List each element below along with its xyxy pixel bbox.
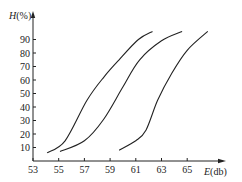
y-tick-label: 50 [20,88,30,99]
y-axis-label: H(%) [8,10,31,22]
y-tick-label: 30 [20,115,30,126]
y-tick-label: 40 [20,102,30,113]
y-tick-label: 60 [20,75,30,86]
x-tick-label: 53 [28,164,38,175]
curve-2 [60,31,182,151]
y-tick-label: 70 [20,61,30,72]
y-tick-label: 20 [20,129,30,140]
x-tick-label: 55 [54,164,64,175]
x-tick-label: 59 [105,164,115,175]
x-tick-label: 61 [131,164,141,175]
curve-1 [47,31,152,152]
y-axis-label-unit: (%) [16,10,31,22]
y-ticks: 102030405060708090 [20,34,36,153]
x-axis-label: E(db) [203,166,227,178]
x-tick-label: 63 [157,164,167,175]
x-axis-arrow-icon [218,159,226,163]
x-axis-label-unit: (db) [210,166,227,178]
y-tick-label: 10 [20,142,30,153]
chart-canvas: 53555759616365 102030405060708090 H(%) E… [0,0,242,182]
x-tick-label: 65 [182,164,192,175]
x-axis-label-var: E [203,166,210,177]
y-axis-arrow-icon [31,11,35,18]
axes [31,11,226,163]
curves [47,31,208,152]
curve-3 [119,31,208,150]
y-tick-label: 90 [20,34,30,45]
y-tick-label: 80 [20,48,30,59]
x-tick-label: 57 [79,164,89,175]
